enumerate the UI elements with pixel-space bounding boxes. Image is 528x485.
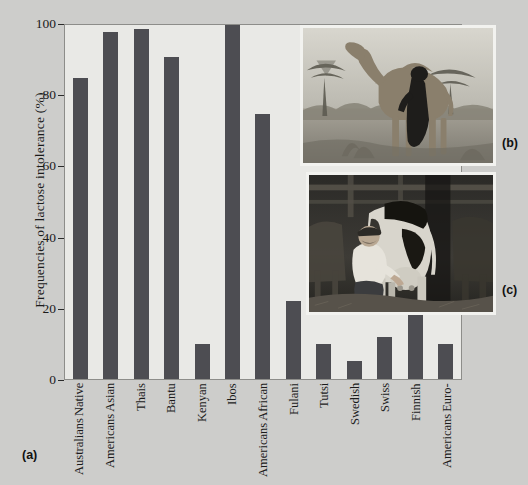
y-axis-tick-label: 20 [16,301,56,317]
x-axis-tick-label: Tutsi [318,383,331,410]
x-axis-tick-label: AsianAmericans [103,383,116,470]
y-axis-tick-label: 40 [16,230,56,246]
bar [438,344,453,379]
x-axis-tick-label: Fulani [287,383,300,417]
x-axis-tick-label-line: Kenyan [195,383,208,424]
x-axis-tick-label: AfricanAmericans [257,383,270,479]
bar [134,29,149,379]
bar [103,32,118,379]
y-axis-tick-label: 60 [16,158,56,174]
x-axis-tick-label: Euro-Americans [440,383,453,470]
bar [73,78,88,379]
x-axis-labels: NativeAustraliansAsianAmericansThaisBant… [64,381,462,485]
x-axis-tick-label-line: Native [73,383,86,418]
photo-camel-artwork [303,28,493,163]
x-axis-tick-label-line: Euro- [440,383,453,413]
x-axis-tick-label: Ibos [226,383,239,407]
y-axis-tick-label: 0 [16,372,56,388]
bar [347,361,362,379]
x-axis-tick-label: Finnish [410,383,423,423]
bar [164,57,179,379]
x-axis-tick-label-line: Bantu [165,383,178,415]
x-axis-tick-label-line: Americans [440,414,453,470]
photo-cow-milking [306,172,496,315]
bar [195,344,210,379]
bar [316,344,331,379]
panel-label-b: (b) [502,136,518,150]
y-axis-tick-label: 100 [16,16,56,32]
x-axis-tick-label: Thais [134,383,147,413]
panel-label-c: (c) [502,283,517,297]
x-axis-tick-label-line: Ibos [226,383,239,407]
bar [377,337,392,379]
bar [255,114,270,380]
bar [286,301,301,379]
x-axis-tick-label-line: African [257,383,270,423]
x-axis-tick-label-line: Asian [103,383,116,414]
x-axis-tick-label-line: Swedish [348,383,361,427]
x-axis-tick-label-line: Americans [103,414,116,470]
figure-container: Frequencies of lactose intolerance (%) 0… [0,0,528,485]
x-axis-tick-label: Kenyan [195,383,208,424]
bar [225,25,240,379]
x-axis-tick-label: NativeAustralians [73,383,86,477]
y-axis-tick-label: 80 [16,87,56,103]
x-axis-tick-label-line: Swiss [379,383,392,414]
x-axis-tick-label: Swedish [348,383,361,427]
x-axis-tick-label-line: Tutsi [318,383,331,410]
x-axis-tick-label-line: Finnish [410,383,423,423]
bar [408,315,423,379]
x-axis-tick-label-line: Thais [134,383,147,413]
photo-camel-milking [300,25,496,166]
y-axis-title: Frequencies of lactose intolerance (%) [32,20,48,380]
panel-label-a: (a) [22,448,37,462]
x-axis-tick-label: Bantu [165,383,178,415]
x-axis-tick-label-line: Fulani [287,383,300,417]
x-axis-tick-label-line: Americans [257,423,270,479]
x-axis-tick-label: Swiss [379,383,392,414]
x-axis-tick-label-line: Australians [73,418,86,477]
photo-cow-artwork [309,175,493,312]
